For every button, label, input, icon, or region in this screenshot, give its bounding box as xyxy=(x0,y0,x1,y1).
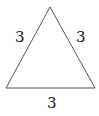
triangle-shape xyxy=(6,7,95,88)
left-side-label: 3 xyxy=(15,28,25,46)
triangle-diagram: 3 3 3 xyxy=(0,0,99,116)
right-side-label: 3 xyxy=(76,28,86,46)
bottom-side-label: 3 xyxy=(47,94,57,112)
